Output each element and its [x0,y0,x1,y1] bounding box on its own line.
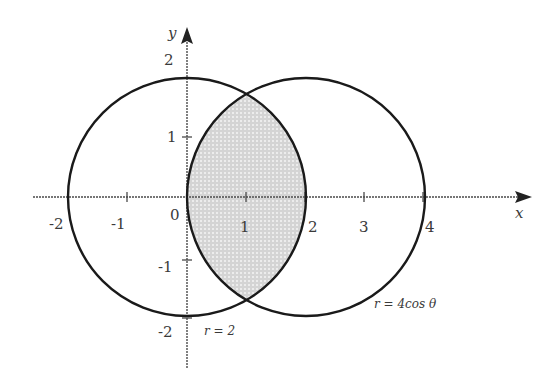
origin-label: 0 [170,206,180,224]
y-tick-label: -1 [158,258,173,276]
curve-label-r-equals-2: r = 2 [204,324,235,338]
x-tick-label: -1 [111,215,126,233]
polar-diagram: y x 0 -2 -1 1 2 3 4 2 1 -1 -2 r = 2 r = … [0,0,553,390]
y-axis-label: y [167,24,177,42]
x-tick-label: -2 [49,215,64,233]
x-tick-label: 4 [425,218,435,236]
y-tick-label: 1 [167,128,177,146]
curve-label-r-equals-4cos-theta: r = 4cos θ [374,297,437,311]
x-tick-label: 3 [359,218,369,236]
x-axis-label: x [515,204,524,222]
y-tick-label: 2 [164,51,174,69]
x-tick-label: 1 [240,218,250,236]
x-tick-label: 2 [308,218,318,236]
y-tick-label: -2 [158,323,173,341]
